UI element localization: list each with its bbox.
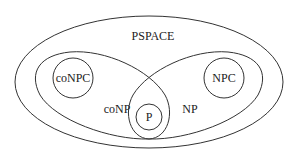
np-region (128, 52, 262, 139)
conp-region (35, 52, 169, 139)
p-label: P (146, 110, 153, 124)
complexity-diagram: PSPACE coNP NP coNPC NPC P (0, 0, 295, 161)
npc-label: NPC (212, 71, 235, 85)
diagram-svg: PSPACE coNP NP coNPC NPC P (0, 0, 295, 161)
pspace-label: PSPACE (132, 29, 175, 43)
conp-label: coNP (104, 102, 131, 116)
np-label: NP (182, 102, 198, 116)
conpc-label: coNPC (56, 71, 91, 85)
